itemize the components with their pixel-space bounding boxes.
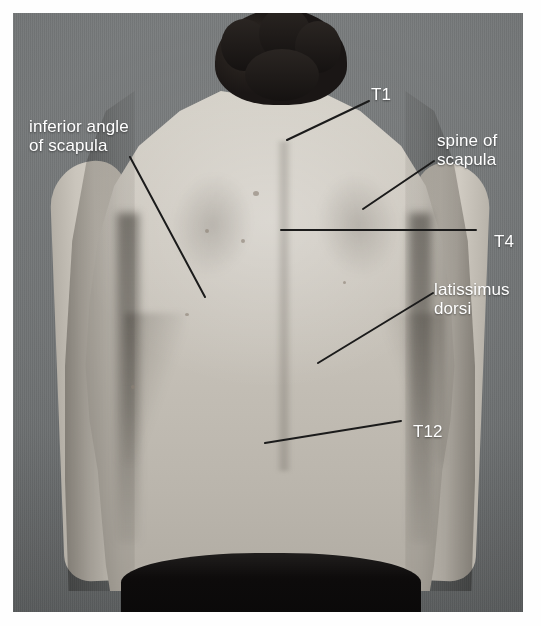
label-latissimus-dorsi: latissimus dorsi xyxy=(434,280,510,318)
anatomy-figure: inferior angle of scapula T1 spine of sc… xyxy=(0,0,541,626)
mole-upper-mid xyxy=(253,191,259,196)
mole-lower-right xyxy=(343,281,346,284)
label-t4: T4 xyxy=(494,232,514,251)
left-scapula-shading xyxy=(156,165,266,298)
back-photograph: inferior angle of scapula T1 spine of sc… xyxy=(13,13,523,612)
label-spine-of-scapula: spine of scapula xyxy=(437,131,497,169)
right-scapula-shading xyxy=(304,165,414,298)
mole-mid-left xyxy=(205,229,209,233)
label-t1: T1 xyxy=(371,85,391,104)
hair-bun xyxy=(215,13,347,105)
mole-lower-left xyxy=(185,313,189,316)
mole-flank-left xyxy=(131,385,135,389)
hair-lobe-nape xyxy=(245,49,319,101)
mole-mid-right xyxy=(241,239,245,243)
label-t12: T12 xyxy=(413,422,443,441)
label-inferior-angle-of-scapula: inferior angle of scapula xyxy=(29,117,129,155)
spinal-groove xyxy=(276,141,292,471)
